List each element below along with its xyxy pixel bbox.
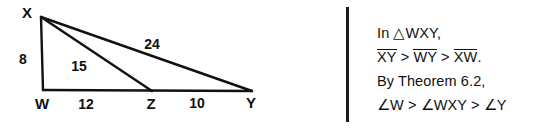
solution-line-1: In △WXY, — [377, 21, 533, 45]
triangle-diagram-svg: X W Z Y 8 15 24 12 10 — [0, 0, 340, 129]
solution-line-2: XY > WY > XW. — [377, 45, 533, 69]
triangle-segments — [41, 17, 252, 91]
line-2-period: . — [477, 49, 481, 65]
segment-XW — [41, 17, 43, 90]
vertex-label-W: W — [35, 95, 50, 112]
vertex-label-Y: Y — [246, 94, 256, 111]
segment-XZ — [41, 17, 152, 91]
vertical-divider — [346, 7, 349, 122]
solution-line-4: ∠W > ∠WXY > ∠Y — [377, 93, 533, 117]
length-label-XZ: 15 — [71, 58, 87, 74]
vertex-label-Z: Z — [146, 95, 155, 112]
vertex-label-X: X — [22, 4, 32, 21]
segment-notation-WY: WY — [413, 49, 437, 65]
segment-XY — [41, 17, 252, 91]
solution-line-3: By Theorem 6.2, — [377, 69, 533, 93]
length-label-WZ: 12 — [78, 96, 94, 112]
solution-text-panel: In △WXY, XY > WY > XW. By Theorem 6.2, ∠… — [377, 21, 533, 121]
geometry-diagram-panel: X W Z Y 8 15 24 12 10 — [0, 0, 340, 129]
figure-container: X W Z Y 8 15 24 12 10 In △WXY, XY > WY >… — [0, 0, 537, 129]
length-label-ZY: 10 — [189, 95, 205, 111]
segment-WY — [43, 90, 252, 91]
inequality-operator-2: > — [441, 49, 450, 65]
vertex-labels: X W Z Y — [22, 4, 256, 112]
length-label-XY: 24 — [144, 36, 160, 52]
length-label-XW: 8 — [19, 51, 27, 67]
inequality-operator-1: > — [401, 49, 410, 65]
segment-notation-XY: XY — [377, 49, 397, 65]
segment-notation-XW: XW — [454, 49, 478, 65]
